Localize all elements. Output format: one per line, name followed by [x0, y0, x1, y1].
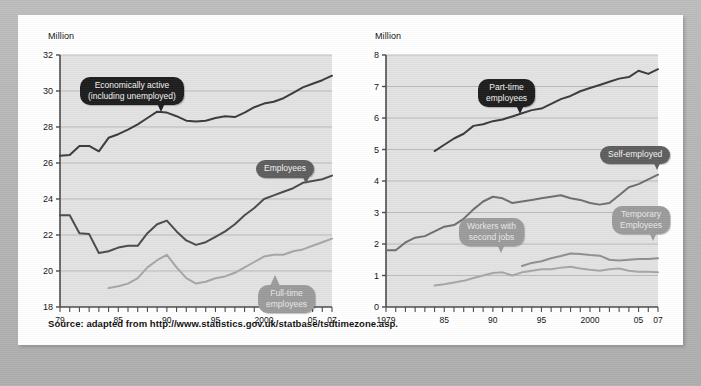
svg-text:05: 05	[634, 315, 644, 325]
svg-text:4: 4	[374, 176, 379, 186]
svg-text:2: 2	[374, 239, 379, 249]
svg-text:3: 3	[374, 208, 379, 218]
callout-tail-icon	[496, 242, 506, 253]
callout-temporary-employees: Temporary Employees	[612, 206, 670, 234]
svg-text:18: 18	[43, 302, 53, 312]
callout-tail-icon	[652, 159, 662, 170]
callout-economically-active-label: Economically active (including unemploye…	[80, 77, 184, 105]
callout-part-time-employees-label: Part-time employees	[478, 79, 535, 107]
svg-text:0: 0	[374, 302, 379, 312]
callout-temporary-employees-label: Temporary Employees	[612, 206, 670, 234]
svg-text:1: 1	[374, 271, 379, 281]
svg-text:07: 07	[653, 315, 663, 325]
callout-workers-with-second-jobs-label: Workers with second jobs	[459, 218, 524, 246]
callout-workers-with-second-jobs: Workers with second jobs	[459, 218, 524, 246]
callout-tail-icon	[515, 103, 525, 114]
callout-tail-icon	[156, 101, 166, 112]
page-background: Million 18202224262830327985909520000507…	[0, 0, 701, 386]
left-chart-panel: Million 18202224262830327985909520000507…	[18, 15, 358, 345]
right-chart-unit-label: Million	[375, 31, 401, 41]
callout-full-time-employees-label: Full-time employees	[258, 285, 315, 313]
svg-text:85: 85	[440, 315, 450, 325]
svg-text:8: 8	[374, 50, 379, 60]
svg-text:2000: 2000	[581, 315, 600, 325]
svg-text:90: 90	[488, 315, 498, 325]
svg-text:32: 32	[43, 50, 53, 60]
svg-text:6: 6	[374, 113, 379, 123]
svg-text:22: 22	[43, 230, 53, 240]
svg-text:24: 24	[43, 194, 53, 204]
svg-text:30: 30	[43, 86, 53, 96]
figure-card: Million 18202224262830327985909520000507…	[18, 15, 683, 345]
svg-text:28: 28	[43, 122, 53, 132]
callout-economically-active: Economically active (including unemploye…	[80, 77, 184, 105]
svg-text:95: 95	[537, 315, 547, 325]
callout-full-time-employees: Full-time employees	[258, 285, 315, 313]
svg-text:20: 20	[43, 266, 53, 276]
source-note: Source: adapted from http://www.statisti…	[48, 318, 398, 329]
callout-tail-icon	[301, 173, 311, 184]
callout-employees: Employees	[256, 160, 314, 178]
callout-tail-icon	[648, 230, 658, 241]
left-chart-unit-label: Million	[48, 31, 74, 41]
svg-text:7: 7	[374, 82, 379, 92]
callout-part-time-employees: Part-time employees	[478, 79, 535, 107]
callout-tail-icon	[270, 275, 280, 286]
callout-self-employed: Self-employed	[600, 146, 670, 164]
right-chart-panel: Million 012345678197985909520000507 Part…	[348, 15, 683, 345]
svg-text:26: 26	[43, 158, 53, 168]
svg-text:5: 5	[374, 145, 379, 155]
